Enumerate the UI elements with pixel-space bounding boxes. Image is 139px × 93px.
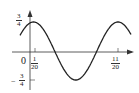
y-label-min: 3 4 [19,73,25,88]
y-min-sign: − [11,77,16,86]
x-axis-arrow-icon [127,50,134,55]
sine-curve [20,22,131,80]
x-label-1-20: 1 20 [31,56,38,71]
y-label-max: 3 4 [16,13,22,28]
chart: 3 4 0 1 20 11 20 − 3 4 [0,0,139,93]
origin-label: 0 [21,56,26,65]
x-label-11-20: 11 20 [111,56,120,71]
y-axis-arrow-icon [28,10,33,17]
